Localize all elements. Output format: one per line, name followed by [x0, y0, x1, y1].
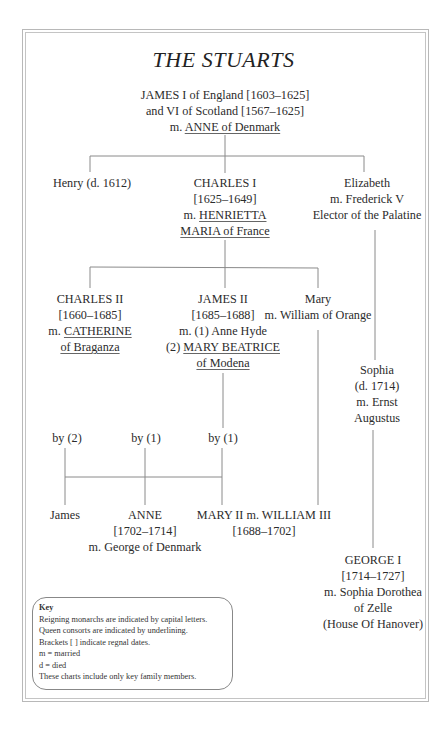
- mary-line1: Mary: [265, 291, 372, 307]
- label-by-1-anne: by (1): [131, 430, 160, 446]
- queen-consort-henrietta: HENRIETTA: [199, 208, 266, 222]
- spouse-prefix: m.: [170, 120, 185, 134]
- sophia-line1: Sophia: [354, 362, 400, 378]
- henry-line1: Henry (d. 1612): [53, 175, 131, 191]
- node-charles-i: CHARLES I [1625–1649] m. HENRIETTA MARIA…: [180, 175, 269, 239]
- key-item: Reigning monarchs are indicated by capit…: [39, 614, 226, 626]
- queen-consort-anne: ANNE of Denmark: [185, 120, 280, 134]
- key-item: Queen consorts are indicated by underlin…: [39, 625, 226, 637]
- node-george-i: GEORGE I [1714–1727] m. Sophia Dorothea …: [323, 552, 423, 632]
- george-i-line5: (House Of Hanover): [323, 616, 423, 632]
- node-elizabeth: Elizabeth m. Frederick V Elector of the …: [313, 175, 422, 223]
- james-i-line2: and VI of Scotland [1567–1625]: [141, 103, 310, 119]
- sophia-line3: m. Ernst: [354, 394, 400, 410]
- sophia-line2: (d. 1714): [354, 378, 400, 394]
- charles-ii-line2: [1660–1685]: [48, 307, 131, 323]
- james-ii-line1: JAMES II: [166, 291, 280, 307]
- spouse-prefix: (2): [166, 340, 183, 354]
- node-charles-ii: CHARLES II [1660–1685] m. CATHERINE of B…: [48, 291, 131, 355]
- queen-consort-catherine-line2: of Braganza: [48, 339, 131, 355]
- elizabeth-line2: m. Frederick V: [313, 191, 422, 207]
- charles-ii-line1: CHARLES II: [48, 291, 131, 307]
- charles-i-line1: CHARLES I: [180, 175, 269, 191]
- key-item: m = married: [39, 648, 226, 660]
- mary-line2: m. William of Orange: [265, 307, 372, 323]
- spouse-prefix: m.: [48, 324, 64, 338]
- key-item: These charts include only key family mem…: [39, 671, 226, 683]
- node-james-son: James: [50, 507, 80, 523]
- spouse-prefix: m.: [184, 208, 200, 222]
- anne-line2: [1702–1714]: [89, 523, 202, 539]
- key-item: Brackets [ ] indicate regnal dates.: [39, 637, 226, 649]
- node-james-i: JAMES I of England [1603–1625] and VI of…: [141, 87, 310, 135]
- james-i-line1: JAMES I of England [1603–1625]: [141, 87, 310, 103]
- node-henry: Henry (d. 1612): [53, 175, 131, 191]
- james-ii-spouse-line1: (2) MARY BEATRICE: [166, 339, 280, 355]
- george-i-line2: [1714–1727]: [323, 568, 423, 584]
- charles-ii-spouse-line1: m. CATHERINE: [48, 323, 131, 339]
- node-sophia: Sophia (d. 1714) m. Ernst Augustus: [354, 362, 400, 426]
- queen-consort-mary-beatrice: MARY BEATRICE: [183, 340, 280, 354]
- queen-consort-mary-beatrice-line2: of Modena: [166, 355, 280, 371]
- elizabeth-line3: Elector of the Palatine: [313, 207, 422, 223]
- key-title: Key: [39, 602, 226, 614]
- queen-consort-catherine: CATHERINE: [64, 324, 132, 338]
- label-by-2: by (2): [52, 430, 81, 446]
- charles-i-line2: [1625–1649]: [180, 191, 269, 207]
- james-ii-line2: [1685–1688]: [166, 307, 280, 323]
- queen-consort-henrietta-line2: MARIA of France: [180, 223, 269, 239]
- node-james-ii: JAMES II [1685–1688] m. (1) Anne Hyde (2…: [166, 291, 280, 371]
- node-mary-ii-william-iii: MARY II m. WILLIAM III [1688–1702]: [197, 507, 331, 539]
- george-i-line4: of Zelle: [323, 600, 423, 616]
- key-item: d = died: [39, 660, 226, 672]
- node-mary: Mary m. William of Orange: [265, 291, 372, 323]
- george-i-line3: m. Sophia Dorothea: [323, 584, 423, 600]
- james-ii-line3: m. (1) Anne Hyde: [166, 323, 280, 339]
- node-anne: ANNE [1702–1714] m. George of Denmark: [89, 507, 202, 555]
- james-i-spouse-line: m. ANNE of Denmark: [141, 119, 310, 135]
- mary-ii-line2: [1688–1702]: [197, 523, 331, 539]
- label-by-1-mary: by (1): [208, 430, 237, 446]
- anne-line1: ANNE: [89, 507, 202, 523]
- mary-ii-line1: MARY II m. WILLIAM III: [197, 507, 331, 523]
- sophia-line4: Augustus: [354, 410, 400, 426]
- charles-i-spouse-line1: m. HENRIETTA: [180, 207, 269, 223]
- james-son-line1: James: [50, 507, 80, 523]
- george-i-line1: GEORGE I: [323, 552, 423, 568]
- elizabeth-line1: Elizabeth: [313, 175, 422, 191]
- legend-key-box: Key Reigning monarchs are indicated by c…: [32, 597, 233, 690]
- anne-line3: m. George of Denmark: [89, 539, 202, 555]
